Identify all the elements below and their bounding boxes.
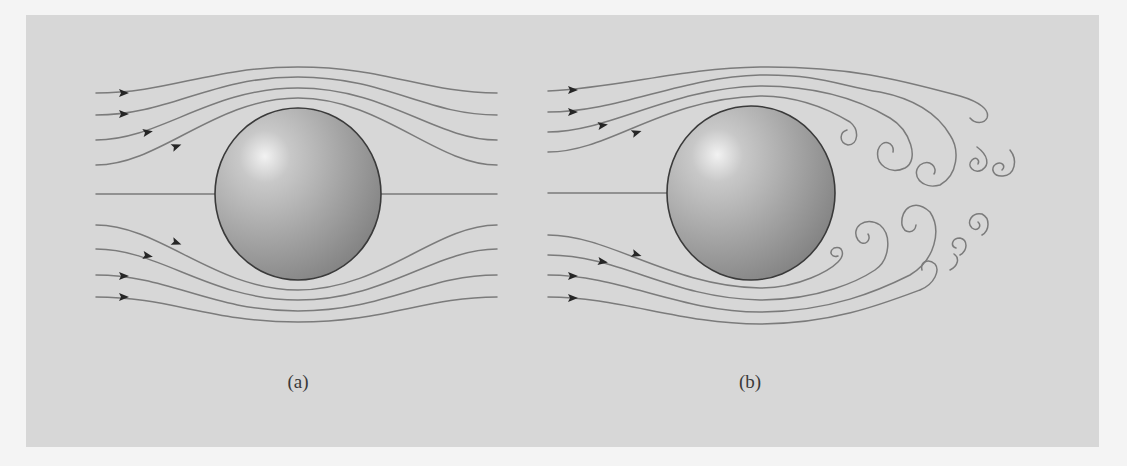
flow-arrow-icon — [171, 141, 183, 152]
streamline — [96, 67, 497, 93]
panel-b-arrowheads — [568, 86, 643, 302]
flow-arrow-icon — [119, 89, 129, 97]
wake-vortex — [953, 238, 966, 255]
flow-arrow-icon — [119, 293, 129, 301]
panel-b-free-vortices — [950, 147, 1014, 270]
panel-a-laminar-flow — [96, 67, 497, 322]
caption-panel-b: (b) — [739, 371, 761, 393]
sphere-b — [667, 106, 835, 280]
wake-vortex — [970, 214, 988, 235]
panel-b-turbulent-flow — [548, 67, 1014, 324]
sphere-a — [215, 108, 381, 280]
streamline — [96, 297, 497, 322]
caption-panel-a: (a) — [287, 371, 308, 393]
wake-vortex — [993, 150, 1015, 176]
flow-arrow-icon — [568, 108, 578, 116]
wake-vortex — [950, 254, 957, 270]
wake-vortex — [970, 147, 987, 171]
flow-arrow-icon — [171, 237, 183, 248]
flow-diagram — [0, 0, 1127, 466]
